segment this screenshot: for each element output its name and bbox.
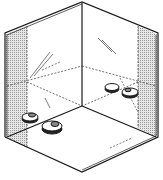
disc-left-2: [42, 121, 62, 134]
disc-right-1: [105, 84, 119, 93]
isometric-box-drawing: [0, 0, 163, 180]
outer-frame: [5, 2, 158, 172]
disc-left-1: [22, 113, 38, 123]
disc-right-2: [122, 88, 138, 98]
right-shaded-panel: [138, 26, 157, 137]
